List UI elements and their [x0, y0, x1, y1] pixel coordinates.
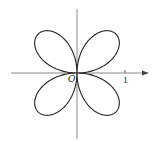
- rose-curve-diagram: 1 O: [0, 0, 159, 141]
- x-tick-label: 1: [123, 76, 128, 85]
- x-axis-arrow-icon: [142, 71, 149, 76]
- origin-label: O: [68, 74, 76, 84]
